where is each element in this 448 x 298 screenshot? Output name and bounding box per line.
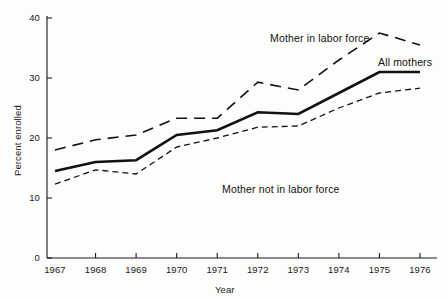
x-axis-tick-label: 1972 [238,264,278,275]
x-axis-tick-label: 1976 [400,264,440,275]
x-axis-tick-label: 1971 [197,264,237,275]
series-line-1 [55,72,420,171]
x-axis-tick-label: 1975 [359,264,399,275]
data-series-lines [55,33,420,184]
y-axis-tick-label: 40 [14,12,40,23]
series-annotation-label: All mothers [378,56,432,68]
x-axis-title: Year [215,284,235,295]
x-axis-tick-label: 1968 [76,264,116,275]
x-axis-tick-label: 1967 [35,264,75,275]
series-annotation-label: Mother in labor force [270,32,369,44]
axis-lines [47,16,437,258]
x-axis-tick-label: 1974 [319,264,359,275]
series-annotation-label: Mother not in labor force [222,183,340,195]
series-line-2 [55,88,420,184]
x-axis-tick-label: 1970 [157,264,197,275]
x-axis-tick-label: 1973 [278,264,318,275]
y-axis-tick-label: 0 [14,252,40,263]
y-axis-tick-label: 30 [14,72,40,83]
y-axis-title: Percent enrolled [12,105,23,176]
y-axis-tick-label: 10 [14,192,40,203]
chart-figure: 403020100 196719681969197019711972197319… [0,0,448,298]
chart-plot-area [0,0,448,298]
axis-ticks [47,18,420,258]
x-axis-tick-label: 1969 [116,264,156,275]
